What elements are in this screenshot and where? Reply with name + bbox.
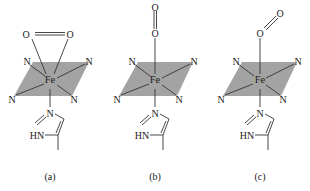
nitrogen-atom: N: [8, 94, 15, 105]
imidazole-nitrogen: N: [46, 108, 53, 119]
nitrogen-atom: N: [128, 56, 135, 67]
nitrogen-atom: N: [85, 56, 92, 67]
nitrogen-atom: N: [294, 56, 301, 67]
imidazole-nh: HN: [135, 130, 149, 141]
imidazole-nh: HN: [30, 130, 44, 141]
imidazole-nh: HN: [240, 130, 254, 141]
imidazole-nitrogen: N: [256, 108, 263, 119]
panel-a: O O Fe N N N N N HN (a): [8, 29, 92, 183]
oxygen-atom: O: [151, 2, 158, 13]
nitrogen-atom: N: [190, 56, 197, 67]
panel-label-a: (a): [44, 171, 55, 183]
nitrogen-atom: N: [70, 94, 77, 105]
iron-atom: Fe: [255, 74, 266, 85]
panel-b: O O Fe N N N N N HN (b): [113, 2, 197, 183]
oxygen-atom: O: [22, 29, 29, 40]
nitrogen-atom: N: [113, 94, 120, 105]
nitrogen-atom: N: [232, 56, 239, 67]
oxygen-atom: O: [256, 28, 263, 39]
panel-c: O O Fe N N N N N HN (c): [217, 8, 301, 183]
panel-label-b: (b): [149, 171, 161, 183]
imidazole-nitrogen: N: [151, 108, 158, 119]
iron-atom: Fe: [45, 74, 56, 85]
heme-o2-binding-diagram: O O Fe N N N N N HN (a) O O Fe: [0, 0, 310, 191]
nitrogen-atom: N: [217, 94, 224, 105]
nitrogen-atom: N: [23, 56, 30, 67]
nitrogen-atom: N: [175, 94, 182, 105]
panel-label-c: (c): [254, 171, 265, 183]
oxygen-atom: O: [276, 8, 283, 19]
nitrogen-atom: N: [279, 94, 286, 105]
oxygen-atom: O: [66, 29, 73, 40]
oxygen-atom: O: [151, 28, 158, 39]
iron-atom: Fe: [150, 74, 161, 85]
